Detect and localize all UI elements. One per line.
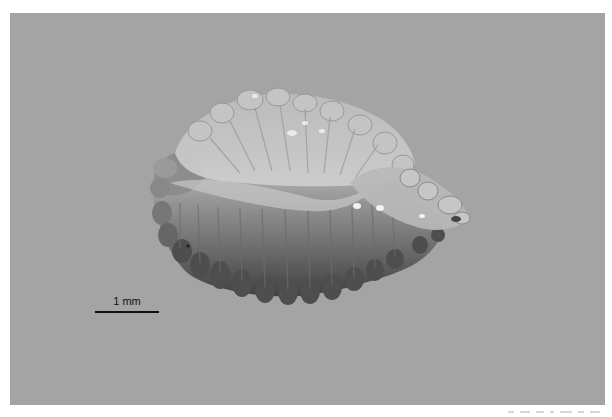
credit-mark	[508, 411, 514, 413]
specimen-illustration	[10, 13, 605, 405]
credit-mark	[520, 411, 530, 413]
credit-mark	[560, 411, 572, 413]
scale-bar-label: 1 mm	[95, 295, 159, 307]
credit-mark	[536, 411, 544, 413]
credit-mark	[590, 411, 600, 413]
image-credit-marks	[460, 410, 600, 414]
specimen-photo: 1 mm	[10, 13, 605, 405]
scale-bar: 1 mm	[95, 295, 159, 315]
credit-mark	[550, 411, 554, 413]
credit-mark	[578, 411, 584, 413]
scale-bar-line	[95, 311, 159, 313]
